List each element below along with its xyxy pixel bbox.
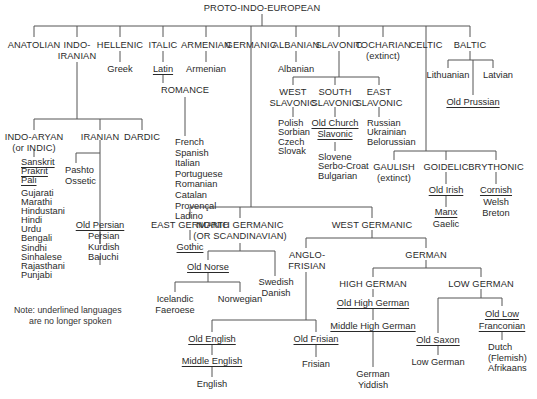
- lang-old-irish: Old Irish: [429, 185, 464, 196]
- lang-old-low-franconian: Old Low Franconian: [479, 308, 526, 332]
- lang-cornish: Cornish: [480, 185, 512, 196]
- branch-iranian: IRANIAN: [81, 132, 119, 143]
- branch-italic: ITALIC: [149, 40, 178, 51]
- lang-middle-high-german: Middle High German: [330, 321, 415, 332]
- branch-west-germanic: WEST GERMANIC: [332, 220, 413, 231]
- dutch-languages-list: Dutch (Flemish) Afrikaans: [488, 342, 527, 374]
- lang-gaelic: Gaelic: [433, 219, 459, 230]
- west-slavonic-list: Polish Sorbian Czech Slovak: [278, 119, 310, 156]
- branch-baltic: BALTIC: [454, 40, 486, 51]
- romance-languages-list: French Spanish Italian Portuguese Romani…: [175, 137, 223, 222]
- lang-old-saxon: Old Saxon: [416, 335, 459, 346]
- lang-greek: Greek: [107, 64, 132, 75]
- branch-armenian: ARMENIAN: [181, 40, 231, 51]
- branch-anatolian: ANATOLIAN: [8, 40, 61, 51]
- branch-north-germanic: NORTH GERMANIC (OR SCANDINAVIAN): [193, 220, 286, 241]
- branch-east-slavonic: EAST SLAVONIC: [355, 87, 402, 108]
- branch-indo-iranian: INDO- IRANIAN: [58, 40, 96, 61]
- indic-languages-list: Gujarati Marathi Hindustani Hindi Urdu B…: [21, 189, 65, 280]
- lang-old-prussian: Old Prussian: [446, 97, 499, 108]
- branch-low-german: LOW GERMAN: [448, 279, 514, 290]
- legend-note: Note: underlined languages are no longer…: [14, 305, 122, 326]
- branch-hellenic: HELLENIC: [97, 40, 143, 51]
- south-slavonic-list: Slovene Serbo-Croat Bulgarian: [318, 153, 369, 181]
- root-proto-indo-european: PROTO-INDO-EUROPEAN: [204, 3, 320, 14]
- branch-dardic: DARDIC: [124, 132, 160, 143]
- branch-west-slavonic: WEST SLAVONIC: [269, 87, 316, 108]
- lang-low-german: Low German: [411, 357, 464, 368]
- language-family-tree: PROTO-INDO-EUROPEAN ANATOLIAN INDO- IRAN…: [0, 0, 537, 399]
- lang-manx: Manx: [435, 207, 458, 218]
- branch-albanian: ALBANIAN: [273, 40, 320, 51]
- extinct-indic-list: Sanskrit Prakrit Pali: [21, 158, 55, 186]
- lang-gothic: Gothic: [177, 242, 204, 253]
- lang-norwegian: Norwegian: [218, 294, 262, 305]
- lang-old-frisian: Old Frisian: [294, 334, 339, 345]
- lang-armenian: Armenian: [186, 64, 226, 75]
- branch-brythonic: BRYTHONIC: [468, 162, 523, 173]
- lang-old-english: Old English: [188, 334, 236, 345]
- pashto-ossetic-list: Pashto Ossetic: [65, 165, 96, 186]
- branch-goidelic: GOIDELIC: [423, 162, 468, 173]
- lang-latin: Latin: [153, 64, 173, 75]
- branch-south-slavonic: SOUTH SLAVONIC: [311, 87, 358, 108]
- lang-lithuanian: Lithuanian: [427, 70, 470, 81]
- lang-old-high-german: Old High German: [337, 298, 409, 309]
- lang-old-norse: Old Norse: [187, 262, 229, 273]
- branch-germanic: GERMANIC: [226, 40, 277, 51]
- german-yiddish-list: German Yiddish: [356, 369, 390, 390]
- branch-tocharian: TOCHARIAN (extinct): [355, 40, 410, 61]
- lang-middle-english: Middle English: [182, 356, 242, 367]
- welsh-breton-list: Welsh Breton: [482, 197, 509, 218]
- persian-languages-list: Persian Kurdish Baluchi: [88, 231, 120, 263]
- swedish-danish-list: Swedish Danish: [258, 277, 293, 298]
- lang-old-church-slavonic: Old Church Slavonic: [311, 118, 358, 140]
- lang-albanian: Albanian: [278, 64, 314, 75]
- branch-german: GERMAN: [405, 250, 446, 261]
- east-slavonic-list: Russian Ukrainian Belorussian: [367, 119, 416, 147]
- lang-latvian: Latvian: [483, 70, 513, 81]
- icelandic-faeroese-list: Icelandic Faeroese: [155, 294, 194, 315]
- branch-gaulish: GAULISH (extinct): [373, 162, 415, 183]
- branch-high-german: HIGH GERMAN: [339, 279, 407, 290]
- lang-frisian: Frisian: [302, 359, 330, 370]
- lang-old-persian: Old Persian: [76, 220, 125, 231]
- branch-indo-aryan: INDO-ARYAN (or INDIC): [5, 132, 64, 153]
- branch-celtic: CELTIC: [410, 40, 443, 51]
- lang-english: English: [197, 379, 228, 390]
- branch-anglo-frisian: ANGLO- FRISIAN: [288, 250, 325, 271]
- branch-romance: ROMANCE: [161, 85, 209, 96]
